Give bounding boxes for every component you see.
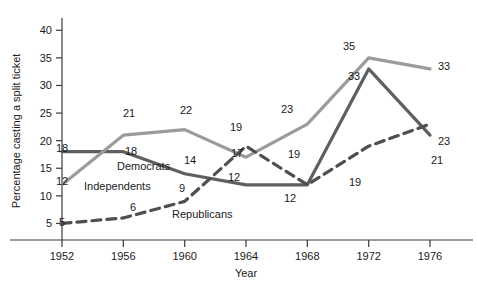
point-value-label: 12 bbox=[284, 192, 296, 204]
point-value-label: 33 bbox=[348, 70, 360, 82]
point-value-label: 19 bbox=[230, 121, 242, 133]
y-axis-tick-label: 25 bbox=[40, 107, 52, 119]
point-value-label: 33 bbox=[438, 60, 450, 72]
x-axis-tick-label: 1960 bbox=[172, 250, 196, 262]
y-axis-title: Percentage casting a split ticket bbox=[10, 54, 22, 209]
point-value-label: 19 bbox=[288, 148, 300, 160]
split-ticket-line-chart: 5101520253035401952195619601964196819721… bbox=[0, 0, 478, 286]
y-axis-tick-label: 30 bbox=[40, 79, 52, 91]
point-value-label: 23 bbox=[438, 135, 450, 147]
chart-canvas: 5101520253035401952195619601964196819721… bbox=[0, 0, 478, 286]
x-axis-tick-label: 1968 bbox=[295, 250, 319, 262]
point-value-label: 5 bbox=[59, 216, 65, 228]
point-value-label: 9 bbox=[179, 182, 185, 194]
point-value-label: 21 bbox=[431, 154, 443, 166]
series-name-label-independents: Independents bbox=[84, 180, 151, 192]
point-value-label: 23 bbox=[281, 103, 293, 115]
x-axis-tick-label: 1964 bbox=[234, 250, 258, 262]
point-value-label: 35 bbox=[343, 40, 355, 52]
series-name-label-democrats: Democrats bbox=[117, 160, 171, 172]
point-value-label: 17 bbox=[231, 147, 243, 159]
point-value-label: 22 bbox=[180, 104, 192, 116]
point-value-label: 14 bbox=[184, 154, 196, 166]
x-axis-tick-label: 1972 bbox=[356, 250, 380, 262]
point-value-label: 19 bbox=[349, 176, 361, 188]
y-axis-tick-label: 15 bbox=[40, 162, 52, 174]
point-value-label: 18 bbox=[125, 145, 137, 157]
y-axis-tick-label: 5 bbox=[46, 217, 52, 229]
x-axis-tick-label: 1976 bbox=[418, 250, 442, 262]
point-value-label: 21 bbox=[123, 107, 135, 119]
y-axis-tick-label: 20 bbox=[40, 135, 52, 147]
x-axis-tick-label: 1956 bbox=[111, 250, 135, 262]
x-axis-title: Year bbox=[235, 267, 258, 279]
point-value-label: 18 bbox=[56, 142, 68, 154]
y-axis-tick-label: 10 bbox=[40, 190, 52, 202]
x-axis-tick-label: 1952 bbox=[50, 250, 74, 262]
point-value-label: 12 bbox=[228, 171, 240, 183]
series-name-label-republicans: Republicans bbox=[172, 208, 233, 220]
point-value-label: 6 bbox=[130, 201, 136, 213]
y-axis-tick-label: 35 bbox=[40, 52, 52, 64]
y-axis-tick-label: 40 bbox=[40, 24, 52, 36]
point-value-label: 12 bbox=[56, 175, 68, 187]
